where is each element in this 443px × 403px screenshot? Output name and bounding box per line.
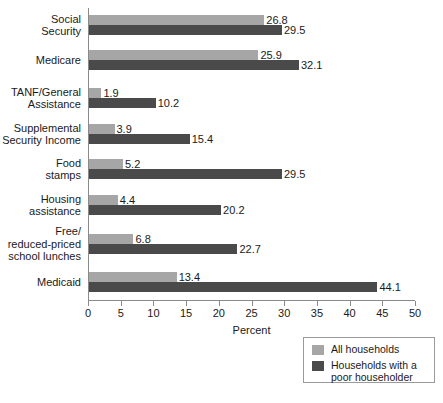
bar-value-label: 29.5 [284,24,305,36]
category-label: Supplemental Security Income [2,122,81,147]
bar-poor-householder [89,98,156,108]
bar-value-label: 15.4 [192,133,213,145]
bar-all-households [89,272,177,282]
bar-all-households [89,50,258,60]
legend-swatch-icon-poor-householder [312,361,324,371]
x-axis-tick-label: 0 [85,307,91,319]
x-axis-tick [382,301,383,306]
category-label: Free/ reduced-priced school lunches [8,225,81,263]
bar-value-label: 29.5 [284,168,305,180]
chart-legend: All households Households with a poor ho… [303,337,435,383]
category-label: Social Security [41,13,81,38]
bar-all-households [89,234,133,244]
x-axis-tick-label: 50 [409,307,421,319]
x-axis-tick-label: 15 [180,307,192,319]
bar-poor-householder [89,282,377,292]
bar-poor-householder [89,134,190,144]
x-axis-tick [415,301,416,306]
x-axis-title: Percent [233,324,271,336]
x-axis-tick-label: 25 [245,307,257,319]
bar-all-households [89,88,101,98]
x-axis-tick [284,301,285,306]
bar-poor-householder [89,25,282,35]
x-axis-tick [186,301,187,306]
legend-swatch-icon-all-households [312,345,324,355]
bar-poor-householder [89,205,221,215]
x-axis-tick [219,301,220,306]
category-label: Food stamps [46,157,81,182]
x-axis-tick [350,301,351,306]
bar-poor-householder [89,169,282,179]
x-axis-tick-label: 5 [118,307,124,319]
bar-value-label: 44.1 [379,281,400,293]
legend-item-all-households: All households [312,344,399,356]
x-axis-tick-label: 30 [278,307,290,319]
category-label: Housing assistance [29,193,81,218]
bar-chart: 05101520253035404550 Social Security26.8… [0,0,443,403]
category-label: Medicaid [37,276,81,289]
category-label: Medicare [36,54,81,67]
x-axis-tick-label: 45 [376,307,388,319]
bar-value-label: 10.2 [158,97,179,109]
bar-poor-householder [89,244,237,254]
bar-value-label: 32.1 [301,59,322,71]
bar-value-label: 20.2 [223,204,244,216]
x-axis-tick-label: 10 [147,307,159,319]
bar-all-households [89,15,264,25]
bar-poor-householder [89,60,299,70]
bar-value-label: 22.7 [239,243,260,255]
legend-item-poor-householder: Households with a poor householder [312,360,417,383]
x-axis-tick-label: 20 [213,307,225,319]
legend-label-poor-householder: Households with a poor householder [331,360,417,383]
x-axis-tick [252,301,253,306]
x-axis-tick [153,301,154,306]
legend-label-all-households: All households [331,344,399,356]
x-axis-tick-label: 35 [311,307,323,319]
x-axis-tick [121,301,122,306]
x-axis-tick-label: 40 [343,307,355,319]
x-axis-tick [317,301,318,306]
bar-all-households [89,124,115,134]
bar-all-households [89,159,123,169]
bar-all-households [89,195,118,205]
x-axis-tick [88,301,89,306]
category-label: TANF/General Assistance [11,86,81,111]
